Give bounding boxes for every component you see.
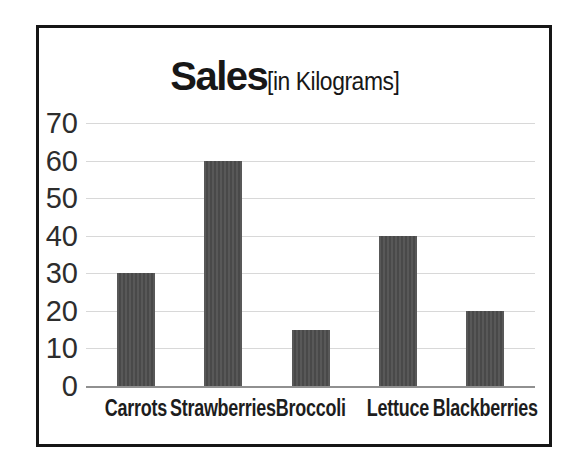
x-tick-label: Blackberries (405, 395, 565, 422)
y-tick-label: 30 (28, 258, 78, 288)
chart-title: Sales[in Kilograms] (39, 54, 549, 99)
x-tick-label-text: Blackberries (433, 395, 538, 422)
y-tick-label: 20 (28, 296, 78, 326)
y-tick-label: 60 (28, 146, 78, 176)
gridline (86, 161, 535, 162)
plot-area: 706050403020100CarrotsStrawberriesBrocco… (86, 123, 535, 388)
bar-blackberries (466, 311, 504, 386)
bar-broccoli (292, 330, 330, 386)
chart-frame: Sales[in Kilograms] 706050403020100Carro… (36, 25, 552, 447)
y-tick-label: 40 (28, 221, 78, 251)
y-tick-label: 10 (28, 333, 78, 363)
gridline (86, 123, 535, 124)
y-tick-label: 70 (28, 108, 78, 138)
chart-title-main: Sales (170, 54, 267, 98)
bar-carrots (117, 273, 155, 386)
gridline (86, 198, 535, 199)
bar-strawberries (204, 161, 242, 386)
y-tick-label: 50 (28, 183, 78, 213)
bar-lettuce (379, 236, 417, 386)
chart-title-suffix: [in Kilograms] (267, 66, 399, 97)
gridline (86, 236, 535, 237)
